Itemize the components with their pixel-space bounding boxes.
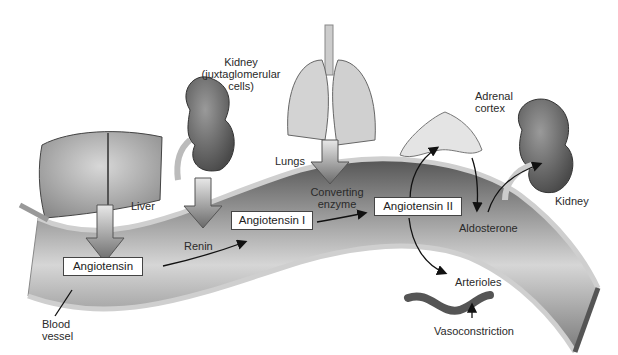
adrenal-cortex-illustration (400, 112, 482, 157)
adrenal-label-line2: cortex (475, 102, 513, 114)
blood-vessel-label: Blood vessel (42, 318, 73, 342)
adrenal-label-line1: Adrenal (475, 90, 513, 102)
angiotensin-ii-box: Angiotensin II (374, 197, 462, 216)
aldosterone-label: Aldosterone (459, 222, 518, 234)
vasoconstriction-label: Vasoconstriction (434, 325, 514, 337)
kidney-label-line1: Kidney (200, 56, 282, 68)
lungs-illustration (288, 25, 376, 145)
converting-line1: Converting (305, 186, 369, 198)
kidney-label-line2: (juxtaglomerular (200, 68, 282, 80)
kidney-label-line3: cells) (200, 80, 282, 92)
kidney-juxtaglomerular-illustration (177, 77, 234, 180)
lungs-label: Lungs (275, 155, 305, 167)
kidney-juxtaglomerular-label: Kidney (juxtaglomerular cells) (200, 56, 282, 92)
liver-label: Liver (131, 200, 155, 212)
kidney-right-label: Kidney (555, 195, 589, 207)
adrenal-cortex-label: Adrenal cortex (475, 90, 513, 114)
diagram-canvas: Kidney (juxtaglomerular cells) Lungs Adr… (0, 0, 618, 355)
angiotensin-i-box: Angiotensin I (231, 211, 313, 230)
diagram-artwork (0, 0, 618, 355)
renin-label: Renin (184, 240, 213, 252)
kidney-right-illustration (505, 99, 573, 200)
angiotensin-box: Angiotensin (63, 257, 143, 276)
arterioles-label: Arterioles (455, 276, 501, 288)
blood-vessel-line1: Blood (42, 318, 73, 330)
converting-line2: enzyme (305, 198, 369, 210)
converting-enzyme-label: Converting enzyme (305, 186, 369, 210)
blood-vessel-line2: vessel (42, 330, 73, 342)
arteriole-illustration (408, 295, 490, 311)
